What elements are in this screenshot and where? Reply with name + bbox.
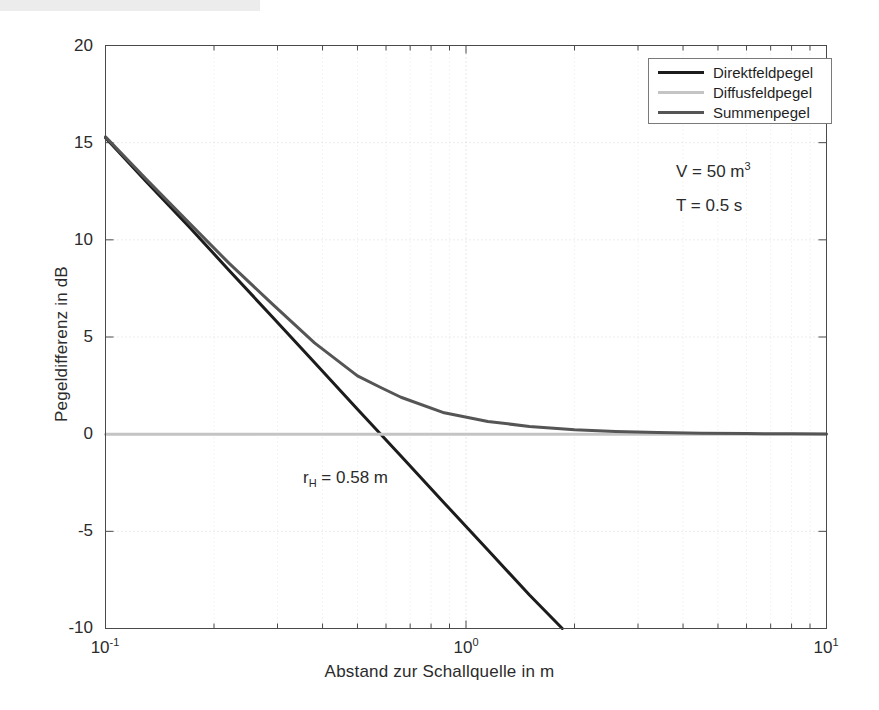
xtick-exponent: 1 bbox=[832, 636, 838, 648]
legend-entry-diffusfeldpegel: Diffusfeldpegel bbox=[649, 81, 833, 103]
annotation-hall-radius-value: = 0.58 m bbox=[317, 468, 388, 487]
series-direktfeldpegel bbox=[106, 138, 563, 629]
ytick-label: 15 bbox=[33, 133, 93, 153]
legend-swatch-diffusfeldpegel bbox=[658, 91, 704, 94]
y-axis-label: Pegeldifferenz in dB bbox=[52, 194, 72, 494]
ytick-label: -5 bbox=[33, 521, 93, 541]
xtick-label: 100 bbox=[431, 636, 501, 658]
minor-gridlines bbox=[214, 46, 810, 629]
legend-label: Direktfeldpegel bbox=[713, 64, 813, 81]
major-gridlines bbox=[106, 46, 827, 629]
x-axis-label: Abstand zur Schallquelle in m bbox=[0, 662, 879, 682]
xtick-exponent: 0 bbox=[472, 636, 478, 648]
annotation-volume: V = 50 m3 bbox=[676, 160, 751, 182]
legend-swatch-direktfeldpegel bbox=[658, 71, 704, 74]
annotation-hall-radius: rH = 0.58 m bbox=[303, 468, 388, 489]
legend-label: Summenpegel bbox=[713, 104, 810, 121]
annotation-hall-radius-subscript: H bbox=[309, 477, 317, 489]
xtick-label: 101 bbox=[791, 636, 861, 658]
xtick-exponent: -1 bbox=[110, 636, 120, 648]
xtick-mantissa: 10 bbox=[91, 638, 110, 657]
annotation-volume-exponent: 3 bbox=[745, 160, 751, 172]
legend-entry-summenpegel: Summenpegel bbox=[649, 101, 833, 123]
legend-entry-direktfeldpegel: Direktfeldpegel bbox=[649, 61, 833, 83]
legend-swatch-summenpegel bbox=[658, 111, 704, 114]
ytick-label: 20 bbox=[33, 36, 93, 56]
legend: Direktfeldpegel Diffusfeldpegel Summenpe… bbox=[648, 58, 832, 124]
ytick-label: -10 bbox=[33, 618, 93, 638]
xtick-mantissa: 10 bbox=[453, 638, 472, 657]
xtick-label: 10-1 bbox=[70, 636, 140, 658]
annotation-volume-text: V = 50 m bbox=[676, 162, 745, 181]
annotation-reverb-time: T = 0.5 s bbox=[676, 196, 742, 216]
xtick-mantissa: 10 bbox=[813, 638, 832, 657]
legend-label: Diffusfeldpegel bbox=[713, 84, 812, 101]
chart-figure: 20 15 10 5 0 -5 -10 10-1 100 101 Abstand… bbox=[0, 0, 879, 710]
